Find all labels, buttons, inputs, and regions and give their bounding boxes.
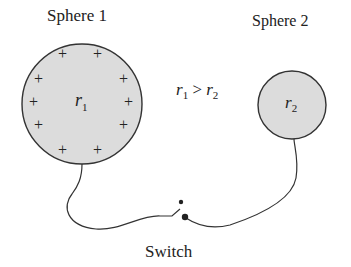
sphere-1-label: Sphere 1 bbox=[47, 6, 107, 26]
plus-charge: + bbox=[58, 141, 67, 159]
diagram-canvas bbox=[0, 0, 351, 267]
sphere-1-radius-label: r1 bbox=[75, 90, 88, 113]
plus-charge: + bbox=[119, 116, 128, 134]
wire-2 bbox=[186, 139, 297, 227]
switch-contact-large bbox=[182, 214, 188, 220]
plus-charge: + bbox=[93, 45, 102, 63]
switch-label: Switch bbox=[145, 242, 192, 262]
sphere-2-label: Sphere 2 bbox=[252, 12, 308, 30]
plus-charge: + bbox=[119, 70, 128, 88]
plus-charge: + bbox=[93, 141, 102, 159]
sphere-2-radius-label: r2 bbox=[285, 93, 297, 114]
wire-1 bbox=[67, 164, 180, 229]
plus-charge: + bbox=[34, 70, 43, 88]
radius-relation: r1 > r2 bbox=[176, 80, 218, 101]
switch-contact-small bbox=[179, 200, 183, 204]
plus-charge: + bbox=[34, 116, 43, 134]
diagram: Sphere 1 Sphere 2 + + + + + + + + + + r1… bbox=[0, 0, 351, 267]
plus-charge: + bbox=[29, 93, 38, 111]
plus-charge: + bbox=[58, 45, 67, 63]
plus-charge: + bbox=[124, 93, 133, 111]
